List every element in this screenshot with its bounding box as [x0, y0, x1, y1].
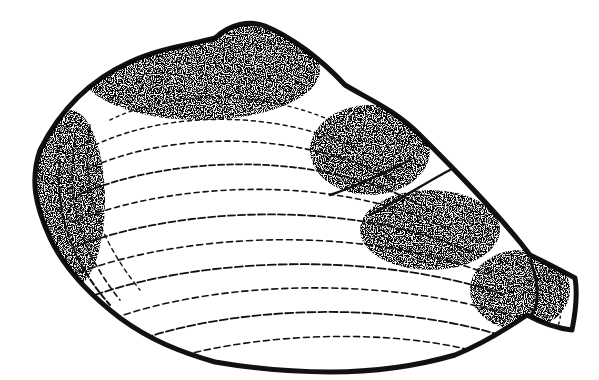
illustration-canvas: [0, 0, 599, 380]
clam-shell-illustration: [0, 0, 599, 380]
